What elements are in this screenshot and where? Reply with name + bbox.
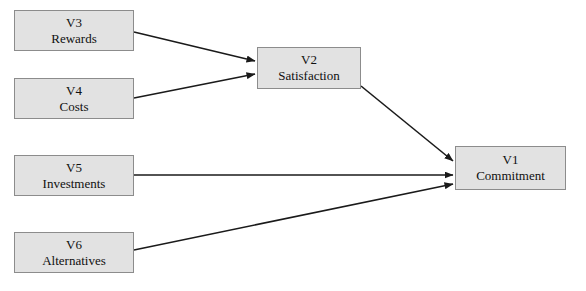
- node-code: V4: [66, 83, 82, 99]
- node-v1-commitment[interactable]: V1 Commitment: [455, 146, 566, 190]
- node-v5-investments[interactable]: V5 Investments: [14, 155, 134, 196]
- node-v3-rewards[interactable]: V3 Rewards: [14, 10, 134, 51]
- node-code: V1: [503, 152, 519, 168]
- node-label: Investments: [43, 176, 106, 192]
- node-label: Satisfaction: [278, 68, 339, 84]
- node-label: Rewards: [51, 31, 97, 47]
- node-label: Costs: [60, 99, 89, 115]
- edge-v2-to-v1: [361, 86, 453, 161]
- node-v4-costs[interactable]: V4 Costs: [14, 78, 134, 119]
- node-code: V6: [66, 237, 82, 253]
- edge-v6-to-v1: [134, 184, 453, 250]
- node-code: V3: [66, 15, 82, 31]
- edge-v3-to-v2: [134, 32, 255, 61]
- node-code: V2: [301, 52, 317, 68]
- node-label: Alternatives: [42, 253, 106, 269]
- node-code: V5: [66, 160, 82, 176]
- path-diagram: V3 Rewards V4 Costs V5 Investments V6 Al…: [0, 0, 586, 291]
- node-label: Commitment: [476, 168, 545, 184]
- node-v6-alternatives[interactable]: V6 Alternatives: [14, 232, 134, 273]
- edge-v4-to-v2: [134, 74, 255, 98]
- node-v2-satisfaction[interactable]: V2 Satisfaction: [257, 47, 361, 89]
